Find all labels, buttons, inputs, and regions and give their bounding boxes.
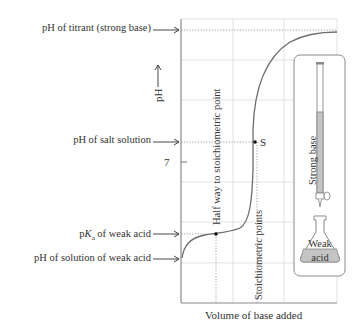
y-axis-label: pH [152, 89, 164, 103]
halfway-label: Half way to stoichiometric point [211, 88, 222, 225]
flask-label-acid: acid [306, 252, 334, 263]
burette-label: Strong base [307, 135, 318, 185]
s-point [253, 140, 257, 144]
flask-label-weak: Weak [306, 238, 334, 249]
stoich-label: Stoichiometric points [253, 210, 264, 300]
svg-text:pH: pH [152, 89, 164, 103]
titration-plot: pH S Half way to stoichiometric point St… [0, 0, 363, 328]
halfway-point [214, 232, 218, 236]
arrows [153, 27, 179, 262]
y-axis-arrow-icon [155, 65, 161, 87]
s-label: S [260, 136, 266, 148]
